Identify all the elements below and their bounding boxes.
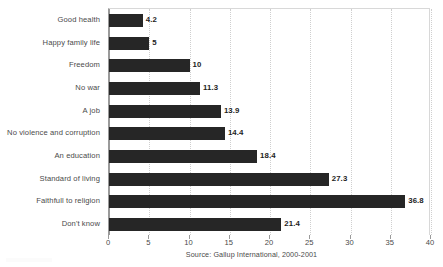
bar-row: 27.3 bbox=[109, 173, 431, 186]
bar-value-label: 21.4 bbox=[284, 219, 300, 228]
x-axis: 0510152025303540 bbox=[108, 235, 430, 249]
x-tick-label: 15 bbox=[225, 238, 233, 247]
x-tick-label: 30 bbox=[345, 238, 353, 247]
x-tick-label: 25 bbox=[305, 238, 313, 247]
bar bbox=[109, 82, 200, 95]
x-tick-label: 35 bbox=[386, 238, 394, 247]
category-label: A job bbox=[0, 106, 100, 115]
bar bbox=[109, 14, 143, 27]
category-label: An education bbox=[0, 151, 100, 160]
bar-chart: Good healthHappy family lifeFreedomNo wa… bbox=[0, 0, 443, 267]
bar-value-label: 10 bbox=[193, 60, 202, 69]
source-note: Source: Gallup International, 2000-2001 bbox=[0, 250, 443, 259]
bar-row: 13.9 bbox=[109, 105, 431, 118]
bar-row: 14.4 bbox=[109, 127, 431, 140]
x-tick-label: 5 bbox=[146, 238, 150, 247]
bar-row: 5 bbox=[109, 37, 431, 50]
bar-row: 11.3 bbox=[109, 82, 431, 95]
bar bbox=[109, 150, 257, 163]
bar bbox=[109, 127, 225, 140]
bar-value-label: 11.3 bbox=[203, 83, 218, 92]
category-label: Happy family life bbox=[0, 38, 100, 47]
bar-row: 10 bbox=[109, 59, 431, 72]
x-tick-label: 0 bbox=[106, 238, 110, 247]
corner-artifact bbox=[6, 258, 52, 262]
plot-area: 4.251011.313.914.418.427.336.821.4 bbox=[108, 8, 430, 235]
bar-row: 36.8 bbox=[109, 195, 431, 208]
bar-value-label: 5 bbox=[152, 38, 156, 47]
bar-row: 21.4 bbox=[109, 218, 431, 231]
category-label: Standard of living bbox=[0, 174, 100, 183]
bar bbox=[109, 37, 149, 50]
bar-value-label: 18.4 bbox=[260, 151, 276, 160]
category-label: Don't know bbox=[0, 219, 100, 228]
category-label: Faithfull to religion bbox=[0, 196, 100, 205]
bar bbox=[109, 173, 329, 186]
bar-row: 4.2 bbox=[109, 14, 431, 27]
category-label: Good health bbox=[0, 15, 100, 24]
x-tick-label: 10 bbox=[184, 238, 192, 247]
bar bbox=[109, 218, 281, 231]
bar-value-label: 14.4 bbox=[228, 128, 244, 137]
category-label: No war bbox=[0, 83, 100, 92]
category-label: No violence and corruption bbox=[0, 128, 100, 137]
bar bbox=[109, 105, 221, 118]
x-tick-label: 20 bbox=[265, 238, 273, 247]
category-label: Freedom bbox=[0, 60, 100, 69]
x-tick-label: 40 bbox=[426, 238, 434, 247]
bar-value-label: 36.8 bbox=[408, 196, 424, 205]
bar bbox=[109, 195, 405, 208]
gridline-40 bbox=[431, 9, 432, 235]
category-axis-labels: Good healthHappy family lifeFreedomNo wa… bbox=[0, 8, 104, 235]
bar-row: 18.4 bbox=[109, 150, 431, 163]
bar-value-label: 13.9 bbox=[224, 106, 240, 115]
bar-value-label: 27.3 bbox=[332, 174, 348, 183]
bar bbox=[109, 59, 190, 72]
bar-value-label: 4.2 bbox=[146, 15, 157, 24]
